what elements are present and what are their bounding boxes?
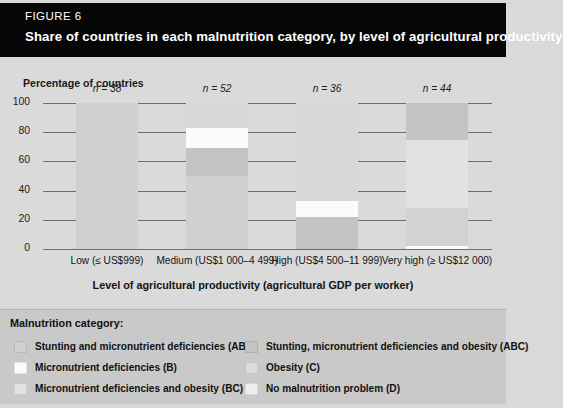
figure-number: FIGURE 6 xyxy=(25,10,82,22)
bar-segment[interactable] xyxy=(406,140,468,209)
legend-item[interactable]: Obesity (C) xyxy=(245,357,528,378)
bar-segment[interactable] xyxy=(406,208,468,246)
y-tick-label: 60 xyxy=(0,154,30,165)
bar-3[interactable]: n = 36 xyxy=(296,103,358,249)
bar-count-label: n = 36 xyxy=(296,83,358,94)
bar-segment[interactable] xyxy=(406,246,468,249)
bar-segment[interactable] xyxy=(406,103,468,140)
figure-header: FIGURE 6 Share of countries in each maln… xyxy=(0,3,506,57)
bar-1[interactable]: n = 38 xyxy=(76,103,138,249)
bar-4[interactable]: n = 44 xyxy=(406,103,468,249)
figure-title: Share of countries in each malnutrition … xyxy=(25,29,563,44)
legend-item-label: Micronutrient deficiencies and obesity (… xyxy=(35,383,243,394)
legend-item-label: No malnutrition problem (D) xyxy=(266,383,400,394)
bar-segment[interactable] xyxy=(186,103,248,128)
bar-count-label: n = 38 xyxy=(76,83,138,94)
bar-2[interactable]: n = 52 xyxy=(186,103,248,249)
bar-segment[interactable] xyxy=(186,176,248,249)
legend-item[interactable]: No malnutrition problem (D) xyxy=(245,378,528,399)
x-tick-label: Very high (≥ US$12 000) xyxy=(370,255,504,266)
legend-item[interactable]: Stunting and micronutrient deficiencies … xyxy=(14,336,249,357)
y-tick-label: 40 xyxy=(0,184,30,195)
legend-swatch-icon xyxy=(245,341,258,353)
legend-item-label: Stunting and micronutrient deficiencies … xyxy=(35,341,249,352)
legend-item[interactable]: Micronutrient deficiencies and obesity (… xyxy=(14,378,249,399)
bar-count-label: n = 52 xyxy=(186,83,248,94)
legend-title: Malnutrition category: xyxy=(10,317,123,329)
legend-swatch-icon xyxy=(14,341,27,353)
plot-area: 020406080100n = 38Low (≤ US$999)n = 52Me… xyxy=(52,103,492,249)
legend-column-left: Stunting and micronutrient deficiencies … xyxy=(14,336,249,399)
bar-count-label: n = 44 xyxy=(406,83,468,94)
y-tick-label: 0 xyxy=(0,242,30,253)
y-tick-label: 80 xyxy=(0,125,30,136)
legend-item-label: Micronutrient deficiencies (B) xyxy=(35,362,177,373)
y-tick-label: 20 xyxy=(0,213,30,224)
bar-segment[interactable] xyxy=(296,217,358,249)
x-axis-title: Level of agricultural productivity (agri… xyxy=(0,279,506,291)
bar-segment[interactable] xyxy=(296,103,358,201)
legend-swatch-icon xyxy=(245,383,258,395)
legend-swatch-icon xyxy=(14,362,27,374)
y-tick-label: 100 xyxy=(0,96,30,107)
bar-segment[interactable] xyxy=(186,128,248,148)
grid-line xyxy=(43,249,492,250)
bar-segment[interactable] xyxy=(296,201,358,217)
bar-segment[interactable] xyxy=(186,148,248,176)
bar-segment[interactable] xyxy=(76,103,138,249)
legend-swatch-icon xyxy=(245,362,258,374)
legend-panel: Malnutrition category: Stunting and micr… xyxy=(0,309,506,404)
legend-item[interactable]: Micronutrient deficiencies (B) xyxy=(14,357,249,378)
legend-item[interactable]: Stunting, micronutrient deficiencies and… xyxy=(245,336,528,357)
legend-swatch-icon xyxy=(14,383,27,395)
legend-column-right: Stunting, micronutrient deficiencies and… xyxy=(245,336,528,399)
chart-panel: Percentage of countries 020406080100n = … xyxy=(0,57,506,307)
legend-item-label: Obesity (C) xyxy=(266,362,320,373)
legend-item-label: Stunting, micronutrient deficiencies and… xyxy=(266,341,528,352)
